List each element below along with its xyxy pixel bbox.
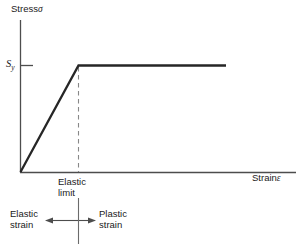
sigma-symbol: σ <box>38 4 43 14</box>
x-axis-label-text: Strain <box>252 172 277 183</box>
x-axis-label: Strainε <box>252 172 281 184</box>
elastic-strain-line-1: Elastic <box>10 208 38 219</box>
yield-stress-subscript: y <box>11 63 14 72</box>
elastic-strain-line-2: strain <box>10 219 38 230</box>
elastic-strain-arrow <box>45 217 78 223</box>
elastic-limit-line-1: Elastic <box>58 176 86 187</box>
plastic-strain-label: Plastic strain <box>99 208 127 230</box>
elastic-limit-label: Elastic limit <box>58 176 86 198</box>
elastic-strain-label: Elastic strain <box>10 208 38 230</box>
plastic-strain-line-2: strain <box>99 219 127 230</box>
stress-strain-figure: Stressσ Strainε Sy Elastic limit Elastic… <box>0 0 304 250</box>
y-axis-label: Stressσ <box>11 3 43 15</box>
yield-stress-label: Sy <box>6 58 15 73</box>
chart-canvas <box>0 0 304 250</box>
y-axis-label-text: Stress <box>11 3 38 14</box>
elastic-limit-line-2: limit <box>58 187 86 198</box>
plastic-strain-arrow <box>79 217 96 223</box>
plastic-strain-line-1: Plastic <box>99 208 127 219</box>
epsilon-symbol: ε <box>277 173 281 183</box>
stress-strain-curve <box>21 66 227 173</box>
